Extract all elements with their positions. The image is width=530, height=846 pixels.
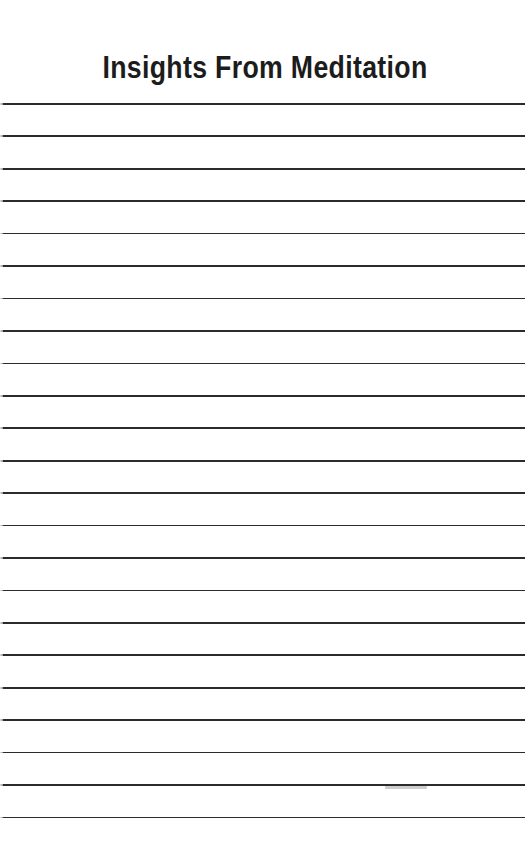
rule-line[interactable]	[0, 492, 530, 524]
rule-line[interactable]	[0, 590, 530, 622]
rule-line[interactable]	[0, 525, 530, 557]
ruled-lines-area	[0, 103, 530, 846]
rule-line[interactable]	[0, 200, 530, 232]
rule-line[interactable]	[0, 233, 530, 265]
rule-line[interactable]	[0, 654, 530, 686]
rule-line[interactable]	[0, 687, 530, 719]
rule-line[interactable]	[0, 427, 530, 459]
rule-line[interactable]	[0, 784, 530, 816]
rule-line[interactable]	[0, 363, 530, 395]
rule-line[interactable]	[0, 135, 530, 167]
notepad-page: Insights From Meditation	[0, 0, 530, 846]
rule-line[interactable]	[0, 817, 530, 846]
rule-line[interactable]	[0, 752, 530, 784]
rule-line[interactable]	[0, 719, 530, 751]
rule-line[interactable]	[0, 103, 530, 135]
rule-line[interactable]	[0, 460, 530, 492]
rule-line[interactable]	[0, 168, 530, 200]
rule-line[interactable]	[0, 622, 530, 654]
rule-line[interactable]	[0, 395, 530, 427]
rule-line[interactable]	[0, 298, 530, 330]
rule-line[interactable]	[0, 557, 530, 589]
rule-line[interactable]	[0, 330, 530, 362]
rule-line[interactable]	[0, 265, 530, 297]
page-title: Insights From Meditation	[37, 50, 493, 86]
